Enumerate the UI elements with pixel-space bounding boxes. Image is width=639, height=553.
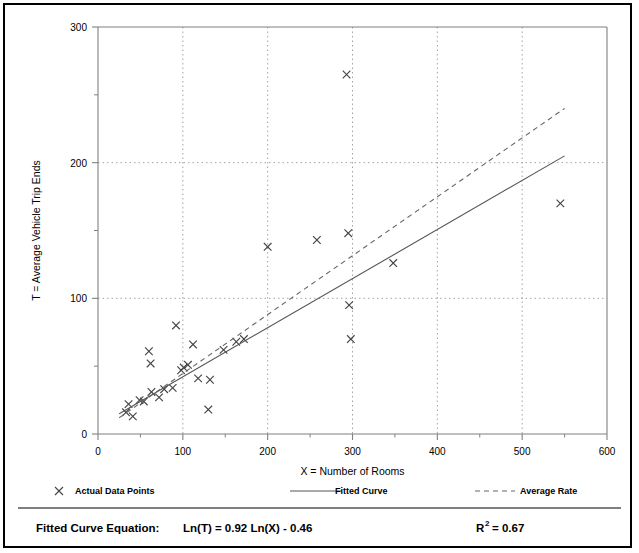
- scatter-points: [122, 71, 564, 420]
- data-point-marker: [557, 200, 565, 208]
- chart-canvas: 01002003004005006000100200300 X = Number…: [0, 0, 639, 553]
- x-tick-label: 0: [95, 446, 101, 457]
- y-tick-label: 100: [70, 293, 87, 304]
- data-point-marker: [220, 346, 228, 354]
- x-tick-label: 400: [429, 446, 446, 457]
- r-squared-exponent: 2: [485, 519, 490, 528]
- data-point-marker: [172, 322, 180, 330]
- data-point-marker: [345, 301, 353, 309]
- data-point-marker: [145, 347, 153, 355]
- average-rate-line: [119, 108, 564, 417]
- data-point-marker: [313, 236, 321, 244]
- y-tick-label: 300: [70, 22, 87, 33]
- r-squared-value: = 0.67: [492, 522, 524, 534]
- y-axis-title: T = Average Vehicle Trip Ends: [30, 160, 42, 301]
- data-point-marker: [169, 384, 177, 392]
- legend-label-2: Fitted Curve: [335, 486, 388, 496]
- data-series: [119, 71, 564, 420]
- legend-label-3: Average Rate: [520, 486, 577, 496]
- chart-legend: Actual Data PointsFitted CurveAverage Ra…: [55, 486, 577, 496]
- data-point-marker: [204, 406, 212, 414]
- data-point-marker: [206, 376, 214, 384]
- y-tick-label: 200: [70, 158, 87, 169]
- data-point-marker: [389, 259, 397, 267]
- data-point-marker: [194, 375, 202, 383]
- equation-label: Fitted Curve Equation:: [36, 522, 159, 534]
- x-tick-label: 100: [174, 446, 191, 457]
- data-point-marker: [343, 71, 351, 79]
- y-tick-label: 0: [81, 429, 87, 440]
- x-tick-label: 600: [599, 446, 616, 457]
- x-axis-title: X = Number of Rooms: [300, 465, 404, 477]
- scatter-chart: 01002003004005006000100200300 X = Number…: [0, 0, 639, 553]
- data-point-marker: [155, 394, 163, 402]
- equation-value: Ln(T) = 0.92 Ln(X) - 0.46: [183, 522, 312, 534]
- x-tick-label: 500: [514, 446, 531, 457]
- data-point-marker: [189, 341, 197, 349]
- data-point-marker: [147, 360, 155, 368]
- axes: [92, 27, 607, 440]
- grid-lines: [98, 27, 607, 434]
- data-point-marker: [347, 335, 355, 343]
- fitted-curve-line: [119, 156, 564, 414]
- legend-label-1: Actual Data Points: [75, 486, 155, 496]
- chart-annotations: Fitted Curve Equation:Ln(T) = 0.92 Ln(X)…: [18, 508, 621, 534]
- legend-x-marker-icon: [55, 487, 63, 495]
- data-point-marker: [129, 413, 137, 421]
- data-point-marker: [180, 364, 188, 372]
- x-tick-label: 300: [344, 446, 361, 457]
- data-point-marker: [344, 229, 352, 237]
- data-point-marker: [184, 361, 192, 369]
- r-squared-symbol: R: [476, 522, 485, 534]
- x-tick-label: 200: [259, 446, 276, 457]
